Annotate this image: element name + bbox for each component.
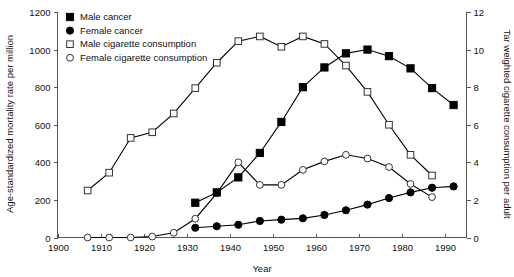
data-point-marker <box>84 234 91 241</box>
data-point-marker <box>407 65 414 72</box>
data-point-marker <box>235 221 242 228</box>
data-point-marker <box>127 135 134 142</box>
chart-svg: 020040060080010001200 024681012 19001910… <box>0 0 514 277</box>
data-point-marker <box>213 59 220 66</box>
data-point-marker <box>364 155 371 162</box>
data-point-marker <box>364 89 371 96</box>
legend-item-label: Male cigarette consumption <box>80 38 196 49</box>
data-point-marker <box>235 159 242 166</box>
data-point-marker <box>213 189 220 196</box>
data-point-marker <box>386 164 393 171</box>
filled-square-icon <box>66 13 73 20</box>
series-line <box>195 186 453 227</box>
series-male-cancer <box>192 46 458 206</box>
x-axis-title: Year <box>252 263 271 274</box>
data-point-marker <box>127 234 134 241</box>
data-point-marker <box>385 53 392 60</box>
data-point-marker <box>450 101 457 108</box>
data-point-marker <box>192 224 199 231</box>
series-line <box>88 155 432 238</box>
data-point-marker <box>235 174 242 181</box>
data-point-marker <box>428 85 435 92</box>
data-point-marker <box>235 38 242 45</box>
x-tick-label: 1910 <box>91 242 112 253</box>
data-point-marker <box>192 199 199 206</box>
left-tick-label: 600 <box>35 120 51 131</box>
left-tick-label: 800 <box>35 82 51 93</box>
data-point-marker <box>170 110 177 117</box>
x-tick-label: 1970 <box>349 242 370 253</box>
legend-item-label: Female cigarette consumption <box>80 52 207 63</box>
x-tick-label: 1930 <box>177 242 198 253</box>
legend-item-label: Female cancer <box>80 25 143 36</box>
data-point-marker <box>343 151 350 158</box>
chart-container: 020040060080010001200 024681012 19001910… <box>0 0 514 277</box>
left-tick-label: 1000 <box>29 45 50 56</box>
data-point-marker <box>407 152 414 159</box>
data-point-marker <box>342 207 349 214</box>
data-point-marker <box>149 129 156 136</box>
x-tick-label: 1960 <box>306 242 327 253</box>
data-point-marker <box>170 229 177 236</box>
right-tick-label: 4 <box>474 157 479 168</box>
y-axis-left-title: Age-standardized mortality rate per mill… <box>4 35 15 213</box>
data-point-marker <box>450 183 457 190</box>
data-point-marker <box>364 46 371 53</box>
legend-item-label: Male cancer <box>80 11 132 22</box>
left-tick-label: 200 <box>35 195 51 206</box>
right-tick-label: 2 <box>474 195 479 206</box>
x-tick-label: 1990 <box>435 242 456 253</box>
data-point-marker <box>386 121 393 128</box>
legend-item: Male cancer <box>66 11 131 22</box>
data-point-marker <box>429 194 436 201</box>
left-tick-label: 400 <box>35 157 51 168</box>
data-point-marker <box>364 201 371 208</box>
data-point-marker <box>299 84 306 91</box>
data-point-marker <box>321 41 328 48</box>
data-point-marker <box>342 50 349 57</box>
x-tick-label: 1950 <box>263 242 284 253</box>
legend-item: Male cigarette consumption <box>67 38 196 49</box>
right-axis-ticks: 024681012 <box>467 7 485 244</box>
data-point-marker <box>84 187 91 194</box>
chart-legend: Male cancerFemale cancerMale cigarette c… <box>66 11 207 63</box>
data-point-marker <box>407 189 414 196</box>
data-series-layer <box>84 33 457 241</box>
data-point-marker <box>149 233 156 240</box>
data-point-marker <box>213 223 220 230</box>
legend-item: Female cigarette consumption <box>67 52 208 63</box>
data-point-marker <box>278 216 285 223</box>
right-tick-label: 12 <box>474 7 485 18</box>
x-tick-label: 1920 <box>134 242 155 253</box>
open-circle-icon <box>67 54 74 61</box>
right-tick-label: 10 <box>474 45 485 56</box>
x-tick-label: 1940 <box>220 242 241 253</box>
right-tick-label: 6 <box>474 120 479 131</box>
legend-item: Female cancer <box>66 25 142 36</box>
series-line <box>195 50 453 203</box>
series-female-cancer <box>192 183 458 232</box>
data-point-marker <box>256 181 263 188</box>
data-point-marker <box>321 158 328 165</box>
data-point-marker <box>300 166 307 173</box>
data-point-marker <box>256 217 263 224</box>
x-tick-label: 1980 <box>392 242 413 253</box>
data-point-marker <box>299 215 306 222</box>
data-point-marker <box>428 184 435 191</box>
data-point-marker <box>300 33 307 40</box>
data-point-marker <box>429 172 436 179</box>
data-point-marker <box>192 85 199 92</box>
data-point-marker <box>343 62 350 69</box>
data-point-marker <box>321 64 328 71</box>
chart-plot-area: 020040060080010001200 024681012 19001910… <box>0 0 514 277</box>
open-square-icon <box>67 41 74 48</box>
data-point-marker <box>192 215 199 222</box>
data-point-marker <box>106 234 113 241</box>
data-point-marker <box>278 43 285 50</box>
y-axis-right-title: Tar weighted cigarette consumption per a… <box>502 29 513 218</box>
left-tick-label: 1200 <box>29 7 50 18</box>
data-point-marker <box>321 211 328 218</box>
data-point-marker <box>256 149 263 156</box>
data-point-marker <box>106 169 113 176</box>
left-axis-ticks: 020040060080010001200 <box>29 7 57 244</box>
